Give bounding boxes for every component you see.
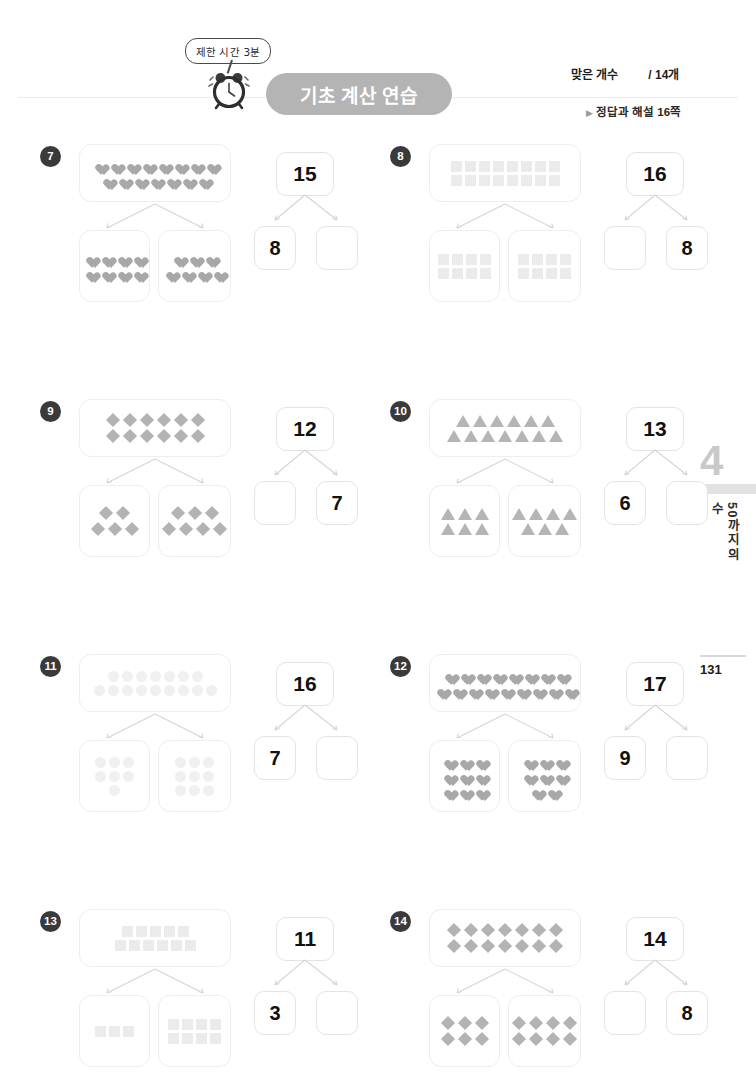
number-bond-tree: 179 xyxy=(594,660,722,810)
shape-row xyxy=(447,430,563,442)
number-bond-tree: 136 xyxy=(594,405,722,555)
total-number-box: 17 xyxy=(626,662,684,706)
right-answer-input-box[interactable] xyxy=(666,736,708,780)
square-shape-icon xyxy=(480,268,491,279)
heart-shape-icon xyxy=(132,268,145,280)
heart-shape-icon xyxy=(189,160,202,172)
triangle-shape-icon xyxy=(475,523,489,535)
square-shape-icon xyxy=(115,940,126,951)
diamond-shape-icon xyxy=(122,413,136,427)
problem-number-badge: 7 xyxy=(40,146,61,167)
shape-box-left-part xyxy=(79,740,150,812)
heart-shape-icon xyxy=(435,685,448,697)
heart-shape-icon xyxy=(93,160,106,172)
diamond-shape-icon xyxy=(498,923,512,937)
square-shape-icon xyxy=(168,1033,179,1044)
diamond-shape-icon xyxy=(116,506,130,520)
shape-row xyxy=(447,924,563,937)
square-shape-icon xyxy=(480,254,491,265)
heart-shape-icon xyxy=(133,175,146,187)
shape-box-right-part xyxy=(508,230,581,302)
right-answer-input-box[interactable] xyxy=(666,481,708,525)
shape-box-right-part xyxy=(508,485,581,557)
heart-shape-icon xyxy=(164,268,177,280)
shape-box-left-part xyxy=(429,740,500,812)
score-total: / 14개 xyxy=(648,65,679,82)
square-shape-icon xyxy=(129,940,140,951)
shape-row xyxy=(171,507,219,520)
right-answer-input-box[interactable] xyxy=(316,991,358,1035)
left-answer-input-box[interactable] xyxy=(254,481,296,525)
diamond-shape-icon xyxy=(563,1032,577,1046)
square-shape-icon xyxy=(122,926,133,937)
heart-shape-icon xyxy=(101,175,114,187)
problem-number-badge: 9 xyxy=(40,401,61,422)
right-answer-input-box[interactable] xyxy=(316,736,358,780)
heart-shape-icon xyxy=(538,755,551,767)
heart-shape-icon xyxy=(474,755,487,767)
heart-shape-icon xyxy=(474,770,487,782)
circle-shape-icon xyxy=(164,671,175,682)
square-shape-icon xyxy=(185,940,196,951)
heart-shape-icon xyxy=(197,175,210,187)
shape-row xyxy=(447,940,563,953)
shape-row xyxy=(512,508,577,520)
shape-row xyxy=(162,523,227,536)
shape-row xyxy=(518,254,571,265)
diamond-shape-icon xyxy=(457,1016,471,1030)
number-bond-tree: 148 xyxy=(594,915,722,1065)
square-shape-icon xyxy=(143,940,154,951)
circle-shape-icon xyxy=(189,757,200,768)
diamond-shape-icon xyxy=(529,1016,543,1030)
shape-box-total xyxy=(429,144,581,202)
square-shape-icon xyxy=(438,268,449,279)
square-shape-icon xyxy=(549,175,560,186)
total-number-box: 11 xyxy=(276,917,334,961)
heart-shape-icon xyxy=(100,268,113,280)
shape-row xyxy=(530,785,559,797)
square-shape-icon xyxy=(182,1019,193,1030)
shape-box-right-part xyxy=(158,485,231,557)
shape-box-left-part xyxy=(79,485,150,557)
circle-shape-icon xyxy=(206,685,217,696)
circle-shape-icon xyxy=(109,771,120,782)
heart-shape-icon xyxy=(539,670,552,682)
right-answer-input-box[interactable] xyxy=(316,226,358,270)
square-shape-icon xyxy=(532,268,543,279)
left-answer-input-box[interactable] xyxy=(604,991,646,1035)
diamond-shape-icon xyxy=(481,923,495,937)
square-shape-icon xyxy=(150,926,161,937)
shape-box-right-part xyxy=(508,995,581,1067)
problem-7: 7158 xyxy=(32,142,372,307)
circle-shape-icon xyxy=(108,685,119,696)
shape-box-left-part xyxy=(429,485,500,557)
square-shape-icon xyxy=(452,254,463,265)
circle-shape-icon xyxy=(203,785,214,796)
shape-row xyxy=(93,160,218,172)
shape-row xyxy=(164,268,225,280)
shape-branch-connector xyxy=(79,457,231,487)
circle-shape-icon xyxy=(189,771,200,782)
diamond-shape-icon xyxy=(213,522,227,536)
left-answer-input-box[interactable] xyxy=(604,226,646,270)
shape-row xyxy=(84,268,145,280)
total-number-box: 15 xyxy=(276,152,334,196)
diamond-shape-icon xyxy=(532,939,546,953)
total-number-box: 14 xyxy=(626,917,684,961)
triangle-shape-icon xyxy=(447,430,461,442)
shape-row xyxy=(442,755,487,767)
square-shape-icon xyxy=(196,1033,207,1044)
page-header: 제한 시간 3분 기초 계산 연습 맞은 개수 / 14개 ▶정답과 해설 16… xyxy=(0,0,756,130)
problem-number-badge: 12 xyxy=(390,656,411,677)
shape-row xyxy=(115,940,196,951)
heart-shape-icon xyxy=(523,670,536,682)
diamond-shape-icon xyxy=(170,506,184,520)
total-number-box: 16 xyxy=(626,152,684,196)
shape-branch-connector xyxy=(79,712,231,742)
diamond-shape-icon xyxy=(440,1016,454,1030)
circle-shape-icon xyxy=(136,671,147,682)
diamond-shape-icon xyxy=(464,923,478,937)
heart-shape-icon xyxy=(205,160,218,172)
circle-shape-icon xyxy=(203,757,214,768)
alarm-clock-icon xyxy=(206,66,252,110)
